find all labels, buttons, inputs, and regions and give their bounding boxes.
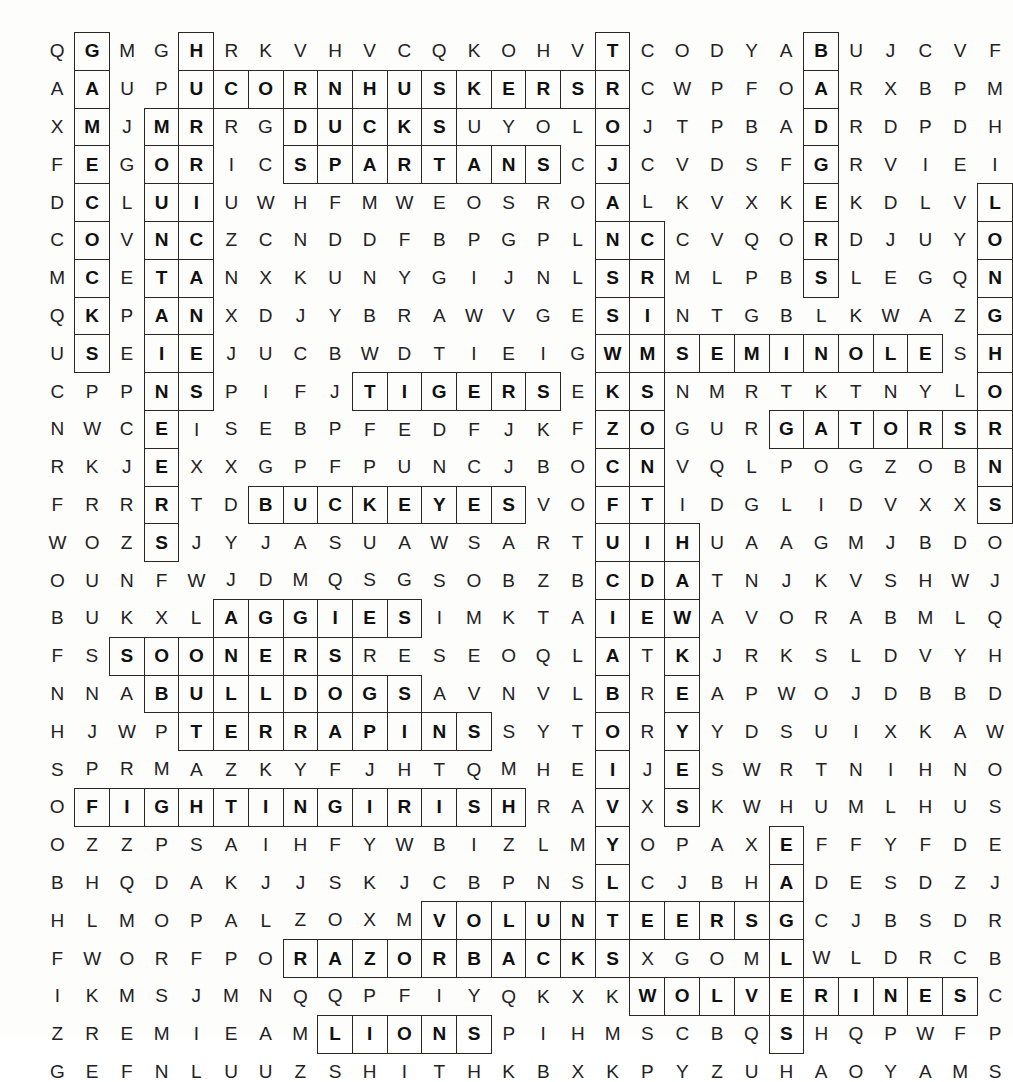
grid-cell[interactable]: A	[248, 1015, 283, 1053]
grid-cell[interactable]: F	[839, 826, 874, 864]
grid-cell[interactable]: T	[214, 788, 249, 826]
grid-cell[interactable]: E	[665, 675, 700, 713]
grid-cell[interactable]: N	[665, 373, 700, 411]
grid-cell[interactable]: L	[873, 335, 908, 373]
grid-cell[interactable]: R	[630, 713, 665, 751]
grid-cell[interactable]: E	[144, 410, 179, 448]
grid-cell[interactable]: D	[943, 524, 978, 562]
grid-cell[interactable]: U	[283, 486, 318, 524]
grid-cell[interactable]: L	[943, 599, 978, 637]
grid-cell[interactable]: O	[457, 902, 492, 940]
grid-cell[interactable]: O	[977, 221, 1012, 259]
grid-cell[interactable]: X	[352, 902, 387, 940]
grid-cell[interactable]: L	[700, 259, 735, 297]
grid-cell[interactable]: B	[457, 864, 492, 902]
grid-cell[interactable]: I	[179, 410, 214, 448]
grid-cell[interactable]: A	[908, 297, 943, 335]
grid-cell[interactable]: A	[700, 826, 735, 864]
grid-cell[interactable]: U	[248, 335, 283, 373]
grid-cell[interactable]: O	[387, 1015, 422, 1053]
grid-cell[interactable]: Q	[40, 297, 75, 335]
grid-cell[interactable]: H	[908, 751, 943, 789]
grid-cell[interactable]: S	[526, 146, 561, 184]
grid-cell[interactable]: T	[144, 259, 179, 297]
grid-cell[interactable]: V	[943, 184, 978, 222]
grid-cell[interactable]: N	[422, 448, 457, 486]
grid-cell[interactable]: S	[977, 1053, 1012, 1082]
grid-cell[interactable]: B	[769, 297, 804, 335]
grid-cell[interactable]: L	[839, 940, 874, 978]
grid-cell[interactable]: B	[144, 675, 179, 713]
grid-cell[interactable]: C	[248, 221, 283, 259]
grid-cell[interactable]: A	[700, 675, 735, 713]
grid-cell[interactable]: F	[561, 410, 596, 448]
grid-cell[interactable]: Q	[839, 1015, 874, 1053]
grid-cell[interactable]: J	[248, 864, 283, 902]
grid-cell[interactable]: A	[804, 70, 839, 108]
grid-cell[interactable]: D	[873, 675, 908, 713]
grid-cell[interactable]: A	[40, 70, 75, 108]
grid-cell[interactable]: X	[630, 940, 665, 978]
grid-cell[interactable]: U	[179, 675, 214, 713]
grid-cell[interactable]: L	[561, 675, 596, 713]
grid-cell[interactable]: H	[561, 1015, 596, 1053]
grid-cell[interactable]: K	[595, 373, 630, 411]
grid-cell[interactable]: Q	[734, 221, 769, 259]
grid-cell[interactable]: Y	[283, 751, 318, 789]
grid-cell[interactable]: W	[75, 410, 110, 448]
grid-cell[interactable]: Q	[110, 864, 145, 902]
grid-cell[interactable]: C	[908, 33, 943, 71]
grid-cell[interactable]: O	[769, 599, 804, 637]
grid-cell[interactable]: K	[457, 70, 492, 108]
grid-cell[interactable]: M	[387, 902, 422, 940]
grid-cell[interactable]: I	[457, 335, 492, 373]
grid-cell[interactable]: A	[491, 524, 526, 562]
grid-cell[interactable]: G	[248, 448, 283, 486]
grid-cell[interactable]: A	[665, 562, 700, 600]
grid-cell[interactable]: I	[839, 713, 874, 751]
grid-cell[interactable]: G	[491, 221, 526, 259]
grid-cell[interactable]: H	[457, 1053, 492, 1082]
grid-cell[interactable]: D	[873, 184, 908, 222]
grid-cell[interactable]: R	[908, 410, 943, 448]
grid-cell[interactable]: P	[352, 977, 387, 1015]
grid-cell[interactable]: G	[665, 940, 700, 978]
grid-cell[interactable]: N	[422, 713, 457, 751]
grid-cell[interactable]: I	[248, 788, 283, 826]
grid-cell[interactable]: S	[943, 977, 978, 1015]
grid-cell[interactable]: C	[630, 221, 665, 259]
grid-cell[interactable]: R	[75, 486, 110, 524]
grid-cell[interactable]: A	[110, 675, 145, 713]
grid-cell[interactable]: Y	[457, 977, 492, 1015]
grid-cell[interactable]: M	[40, 259, 75, 297]
grid-cell[interactable]: Z	[943, 864, 978, 902]
grid-cell[interactable]: J	[214, 335, 249, 373]
grid-cell[interactable]: P	[110, 373, 145, 411]
grid-cell[interactable]: P	[491, 1015, 526, 1053]
grid-cell[interactable]: O	[491, 637, 526, 675]
grid-cell[interactable]: W	[734, 751, 769, 789]
grid-cell[interactable]: N	[977, 259, 1012, 297]
grid-cell[interactable]: I	[387, 373, 422, 411]
grid-cell[interactable]: N	[491, 675, 526, 713]
grid-cell[interactable]: E	[457, 486, 492, 524]
grid-cell[interactable]: S	[873, 562, 908, 600]
grid-cell[interactable]: O	[769, 221, 804, 259]
grid-cell[interactable]: O	[110, 940, 145, 978]
grid-cell[interactable]: R	[491, 373, 526, 411]
grid-cell[interactable]: E	[769, 977, 804, 1015]
grid-cell[interactable]: Z	[491, 826, 526, 864]
grid-cell[interactable]: V	[561, 33, 596, 71]
grid-cell[interactable]: D	[214, 486, 249, 524]
grid-cell[interactable]: F	[40, 146, 75, 184]
grid-cell[interactable]: N	[422, 1015, 457, 1053]
grid-cell[interactable]: A	[318, 940, 353, 978]
grid-cell[interactable]: N	[75, 675, 110, 713]
grid-cell[interactable]: I	[144, 335, 179, 373]
grid-cell[interactable]: H	[318, 33, 353, 71]
grid-cell[interactable]: H	[40, 902, 75, 940]
grid-cell[interactable]: Z	[283, 902, 318, 940]
grid-cell[interactable]: V	[873, 486, 908, 524]
grid-cell[interactable]: I	[422, 788, 457, 826]
grid-cell[interactable]: W	[769, 675, 804, 713]
